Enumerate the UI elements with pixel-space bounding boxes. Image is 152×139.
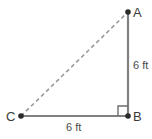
vertex-dot-b [125,113,131,119]
geometry-figure: A B C 6 ft 6 ft [0,0,152,139]
vertex-dot-a [125,9,131,15]
vertex-label-a: A [133,6,142,19]
side-ab-measure-label: 6 ft [133,60,148,71]
vertex-dot-c [18,113,24,119]
vertex-label-c: C [6,110,15,123]
hypotenuse-ca-dashed [21,12,128,116]
triangle-drawing [0,0,152,139]
side-cb-measure-label: 6 ft [66,122,81,133]
vertex-label-b: B [133,110,142,123]
